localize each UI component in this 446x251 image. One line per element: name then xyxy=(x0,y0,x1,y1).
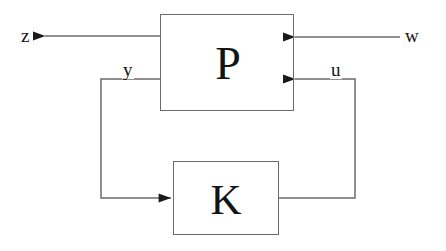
plant-block: P xyxy=(160,14,294,111)
signal-label-w: w xyxy=(404,26,420,45)
signal-label-y: y xyxy=(122,60,134,79)
signal-label-z: z xyxy=(20,26,30,45)
plant-block-label: P xyxy=(215,41,241,87)
controller-block: K xyxy=(173,161,279,235)
controller-block-label: K xyxy=(210,178,241,221)
signal-label-u: u xyxy=(330,60,342,79)
block-diagram-canvas: P K z w y u xyxy=(0,0,446,251)
